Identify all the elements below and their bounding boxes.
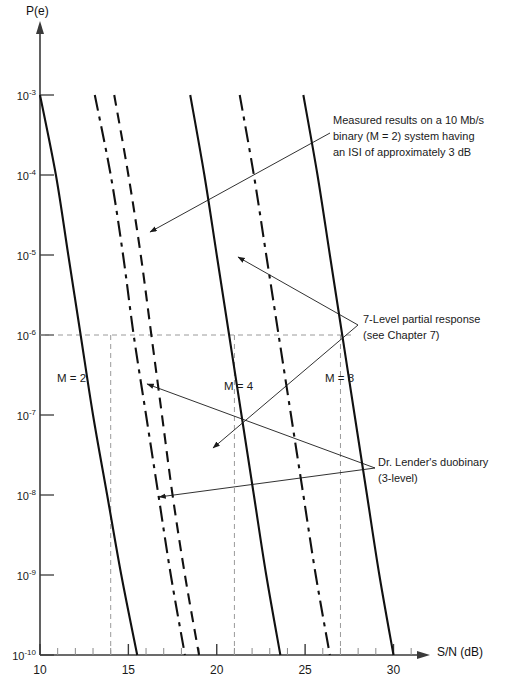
curve-7-level-partial-response: [240, 95, 330, 655]
annotation-measured-results: Measured results on a 10 Mb/s binary (M …: [333, 113, 484, 161]
leader-measured-results: [150, 133, 330, 232]
series-label-m8: M = 8: [325, 372, 354, 384]
curve-duobinary-3-level-a: [95, 95, 185, 655]
y-tick-label: 10-7: [0, 408, 36, 422]
chart-canvas: [0, 0, 513, 697]
curve-m-4: [190, 95, 280, 655]
leader-duobinary-lower: [159, 468, 375, 497]
y-tick-label: 10-6: [0, 328, 36, 342]
annotation-duobinary: Dr. Lender's duobinary (3-level): [378, 455, 488, 487]
x-tick-label: 10: [20, 663, 60, 677]
x-tick-label: 30: [373, 663, 413, 677]
x-tick-label: 25: [285, 663, 325, 677]
x-tick-label: 20: [197, 663, 237, 677]
series-label-m2: M = 2: [57, 372, 86, 384]
annotation-leader-lines: [147, 133, 375, 497]
y-tick-label: 10-4: [0, 168, 36, 182]
x-axis-ticks: [40, 644, 411, 655]
y-tick-label: 10-10: [0, 648, 36, 662]
chart-figure: P(e) S/N (dB) 10-310-410-510-610-710-810…: [0, 0, 513, 697]
y-tick-label: 10-9: [0, 568, 36, 582]
y-tick-label: 10-8: [0, 488, 36, 502]
x-axis-title: S/N (dB): [437, 645, 483, 659]
y-axis-title: P(e): [26, 4, 49, 18]
y-tick-label: 10-5: [0, 248, 36, 262]
leader-partial-response-upper: [238, 257, 358, 325]
x-axis-arrowhead: [417, 651, 430, 659]
curve-duobinary-3-level-b: [114, 95, 199, 655]
annotation-partial-response: 7-Level partial response (see Chapter 7): [363, 312, 480, 344]
series-label-m4: M = 4: [224, 380, 253, 392]
curve-m-2: [40, 95, 137, 655]
y-axis-ticks: [40, 95, 54, 655]
y-tick-label: 10-3: [0, 88, 36, 102]
x-tick-label: 15: [108, 663, 148, 677]
y-axis-arrowhead: [36, 21, 44, 34]
reference-guide-lines: [40, 335, 351, 655]
